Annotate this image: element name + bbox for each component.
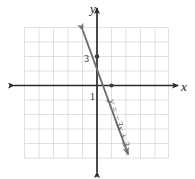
y-intercept-tick-label: 3: [84, 54, 89, 64]
x-axis-label: x: [181, 80, 187, 93]
x-intercept-tick-label: 1: [90, 92, 95, 102]
y-intercept-point: [95, 54, 100, 59]
x-intercept-point: [109, 83, 113, 87]
coordinate-plane: [0, 0, 195, 179]
y-axis-label: y: [90, 2, 96, 15]
graph-figure: y x 3 1 y = −3x + 3: [0, 0, 195, 179]
